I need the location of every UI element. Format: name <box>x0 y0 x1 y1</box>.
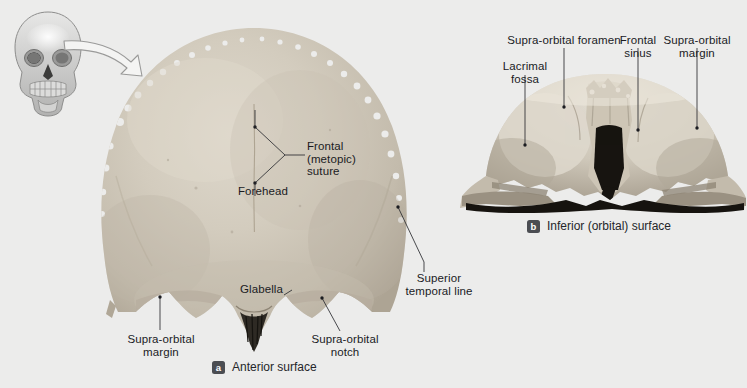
label-supra-orbital-margin-b: Supra-orbital margin <box>663 34 730 59</box>
label-forehead: Forehead <box>238 185 288 198</box>
caption-panel-a-text: Anterior surface <box>232 360 317 374</box>
label-frontal-sinus: Frontal sinus <box>620 34 657 59</box>
label-superior-temporal-line: Superior temporal line <box>405 272 472 297</box>
label-supra-orbital-margin-a: Supra-orbital margin <box>127 333 194 358</box>
label-frontal-metopic-suture: Frontal (metopic) suture <box>307 140 356 178</box>
label-supra-orbital-notch: Supra-orbital notch <box>311 333 378 358</box>
caption-panel-a: a Anterior surface <box>212 360 317 374</box>
label-supra-orbital-foramen: Supra-orbital foramen <box>507 34 620 47</box>
caption-panel-b-text: Inferior (orbital) surface <box>547 219 671 233</box>
label-lacrimal-fossa: Lacrimal fossa <box>503 60 547 85</box>
label-glabella: Glabella <box>240 283 283 296</box>
caption-badge-b: b <box>527 220 540 233</box>
orientation-skull-icon <box>15 12 81 116</box>
caption-panel-b: b Inferior (orbital) surface <box>527 219 671 233</box>
figure-canvas: Frontal (metopic) suture Forehead Glabel… <box>0 0 747 388</box>
caption-badge-a: a <box>212 361 225 374</box>
